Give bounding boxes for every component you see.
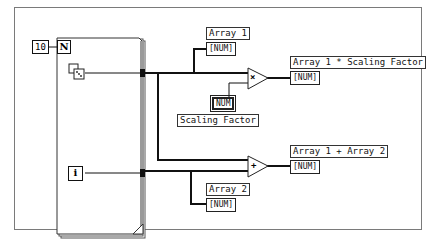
sum-label: Array 1 + Array 2 — [290, 145, 388, 158]
add-function[interactable]: + — [251, 160, 256, 171]
multiply-function[interactable]: × — [250, 72, 255, 83]
array1-indicator[interactable]: [NUM] — [206, 42, 236, 56]
loop-count-constant[interactable]: 10 — [32, 40, 49, 54]
array2-label: Array 2 — [206, 183, 250, 196]
iteration-terminal: i — [68, 166, 83, 181]
product-label: Array 1 * Scaling Factor — [290, 56, 426, 69]
sum-indicator[interactable]: [NUM] — [290, 160, 320, 174]
array1-label: Array 1 — [206, 27, 250, 40]
product-indicator[interactable]: [NUM] — [290, 71, 320, 85]
dice-icon — [68, 63, 85, 80]
scaling-factor-control[interactable]: NUM — [212, 97, 234, 110]
array2-indicator[interactable]: [NUM] — [206, 198, 236, 212]
scaling-factor-label: Scaling Factor — [177, 114, 259, 127]
loop-count-terminal: N — [57, 40, 71, 54]
